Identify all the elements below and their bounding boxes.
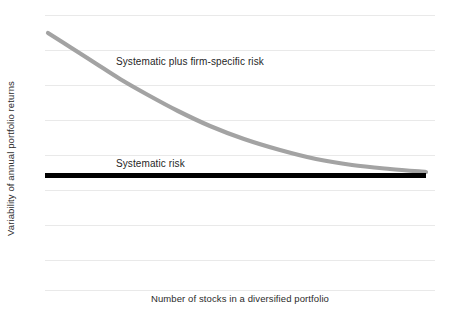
annotation-systematic-risk: Systematic risk [116,158,185,169]
x-axis-title: Number of stocks in a diversified portfo… [45,293,435,304]
total-risk-curve [48,33,426,172]
series-layer [0,0,454,321]
diversification-risk-chart: Systematic plus firm-specific risk Syste… [0,0,454,321]
annotation-total-risk: Systematic plus firm-specific risk [116,56,264,67]
systematic-risk-line [45,173,426,178]
